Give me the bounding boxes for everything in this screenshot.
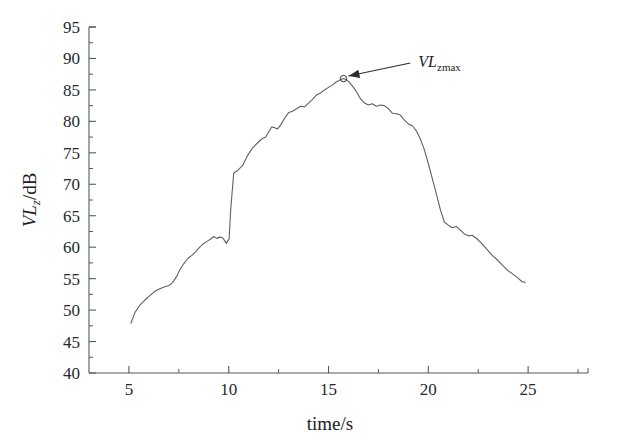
y-tick-label: 95 (63, 18, 80, 37)
peak-annotation-main: VL (418, 53, 437, 70)
x-tick-label: 15 (320, 380, 337, 399)
y-tick-label: 50 (63, 301, 80, 320)
x-tick-label: 5 (125, 380, 134, 399)
x-axis-title: time/s (307, 413, 353, 434)
y-tick-label: 45 (63, 333, 80, 352)
y-axis-title-text: VLz/dB (19, 173, 43, 228)
line-chart: 404550556065707580859095510152025 VLzmax… (0, 0, 619, 441)
y-tick-label: 55 (63, 270, 80, 289)
y-axis-title: VLz/dB (19, 173, 43, 228)
y-tick-label: 65 (63, 207, 80, 226)
chart-background (0, 0, 619, 441)
y-axis-title-unit: /dB (19, 173, 40, 200)
y-tick-label: 85 (63, 81, 80, 100)
y-tick-label: 40 (63, 364, 80, 383)
y-tick-label: 60 (63, 238, 80, 257)
chart-figure: 404550556065707580859095510152025 VLzmax… (0, 0, 619, 441)
x-tick-label: 10 (220, 380, 237, 399)
peak-annotation-sub: zmax (437, 61, 461, 73)
y-tick-label: 90 (63, 49, 80, 68)
y-tick-label: 80 (63, 112, 80, 131)
x-tick-label: 20 (420, 380, 437, 399)
x-tick-label: 25 (520, 380, 537, 399)
y-tick-label: 70 (63, 175, 80, 194)
y-tick-label: 75 (63, 144, 80, 163)
y-axis-title-main: VL (19, 205, 40, 227)
